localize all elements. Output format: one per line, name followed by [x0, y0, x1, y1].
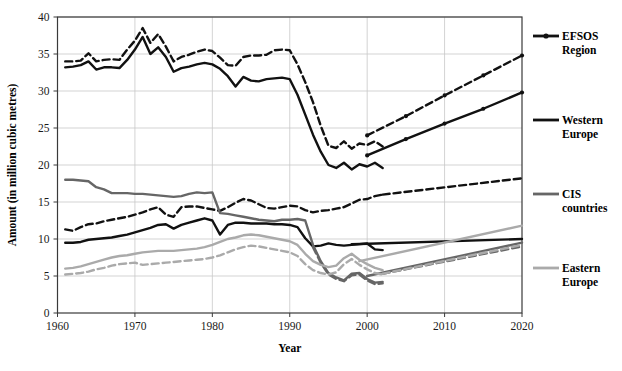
y-tick-label: 40 [38, 11, 50, 23]
y-tick-label: 25 [38, 122, 50, 134]
series-marker-efsos_region [365, 153, 369, 157]
x-tick-label: 1980 [201, 320, 224, 332]
y-tick-label: 10 [38, 233, 50, 245]
x-tick-label: 2010 [433, 320, 456, 332]
series-line-western_europe [65, 218, 382, 250]
series-marker-efsos_region [520, 90, 524, 94]
y-axis-title: Amount (in million cubic metres) [6, 83, 19, 246]
series-line-efsos_region [65, 28, 382, 149]
series-marker-efsos_region [442, 121, 446, 125]
y-tick-label: 20 [38, 159, 50, 171]
legend-label-western_europe[interactable]: Western [562, 114, 603, 126]
legend-label-efsos_region-line2[interactable]: Region [562, 44, 597, 57]
x-tick-label: 2020 [511, 320, 534, 332]
y-tick-label: 15 [38, 196, 50, 208]
y-axis-ticks: 0510152025303540 [38, 11, 58, 319]
series-marker-efsos_region [481, 73, 485, 77]
legend-label-cis_countries-line2[interactable]: countries [562, 202, 608, 214]
chart-container: 1960197019801990200020102020 05101520253… [0, 0, 622, 371]
line-chart: 1960197019801990200020102020 05101520253… [0, 0, 622, 371]
y-tick-label: 0 [44, 307, 50, 319]
x-tick-label: 1990 [278, 320, 301, 332]
y-tick-label: 5 [44, 270, 50, 282]
y-tick-label: 30 [38, 85, 50, 97]
series-line-western_europe [383, 178, 522, 194]
series-marker-efsos_region [520, 53, 524, 57]
x-axis-ticks: 1960197019801990200020102020 [46, 313, 534, 332]
x-tick-label: 2000 [356, 320, 379, 332]
legend-label-efsos_region[interactable]: EFSOS [562, 30, 598, 42]
series-line-efsos_region [65, 37, 382, 169]
legend-label-cis_countries[interactable]: CIS [562, 188, 581, 200]
legend-label-eastern_europe[interactable]: Eastern [562, 262, 601, 274]
series-marker-efsos_region [365, 133, 369, 137]
legend-label-western_europe-line2[interactable]: Europe [562, 128, 598, 141]
y-tick-label: 35 [38, 48, 50, 60]
x-tick-label: 1970 [123, 320, 146, 332]
series-line-eastern_europe [383, 245, 522, 274]
series-line-eastern_europe [65, 246, 382, 275]
series-marker-efsos_region [481, 107, 485, 111]
series-marker-efsos_region [404, 114, 408, 118]
series-marker-efsos_region [404, 137, 408, 141]
legend-label-eastern_europe-line2[interactable]: Europe [562, 276, 598, 289]
x-tick-label: 1960 [46, 320, 69, 332]
series-marker-efsos_region [442, 93, 446, 97]
data-series-group [65, 28, 524, 284]
legend-marker-efsos_region [543, 33, 548, 38]
chart-legend: EFSOSRegionWesternEuropeCIScountriesEast… [533, 30, 608, 289]
x-axis-title: Year [278, 342, 301, 354]
